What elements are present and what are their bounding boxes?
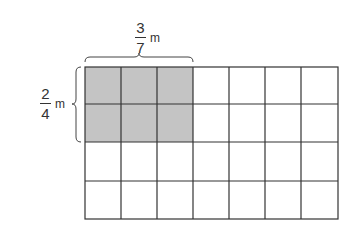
fraction-bar xyxy=(135,37,146,38)
height-unit: m xyxy=(55,97,65,111)
width-unit: m xyxy=(150,31,160,45)
width-numerator: 3 xyxy=(136,20,144,35)
width-fraction: 3 7 xyxy=(135,20,146,55)
height-brace xyxy=(72,67,81,142)
fraction-bar xyxy=(40,103,51,104)
width-denominator: 7 xyxy=(136,40,144,55)
width-label: 3 7 m xyxy=(135,20,160,55)
height-fraction: 2 4 xyxy=(40,86,51,121)
height-label: 2 4 m xyxy=(40,86,65,121)
height-numerator: 2 xyxy=(41,86,49,101)
height-denominator: 4 xyxy=(41,106,49,121)
